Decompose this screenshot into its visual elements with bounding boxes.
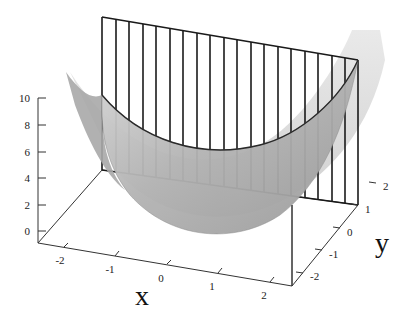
z-axis — [38, 98, 46, 243]
svg-text:-2: -2 — [310, 270, 319, 282]
svg-text:-1: -1 — [329, 248, 338, 260]
z-tick-labels: 10 8 6 4 2 0 — [19, 92, 31, 237]
x-tick-labels: -2 -1 0 1 2 — [55, 254, 266, 301]
svg-text:-1: -1 — [105, 263, 114, 275]
svg-text:8: 8 — [25, 119, 31, 131]
svg-text:2: 2 — [383, 180, 389, 192]
x-axis-title: x — [135, 280, 149, 311]
svg-text:1: 1 — [209, 280, 215, 292]
svg-text:2: 2 — [25, 199, 31, 211]
svg-text:2: 2 — [261, 289, 267, 301]
surface-front — [102, 60, 358, 234]
svg-text:0: 0 — [347, 226, 353, 238]
svg-text:0: 0 — [25, 225, 31, 237]
svg-text:0: 0 — [158, 272, 164, 284]
svg-text:10: 10 — [19, 92, 31, 104]
svg-text:4: 4 — [25, 172, 31, 184]
y-axis-title: y — [375, 227, 389, 258]
svg-text:6: 6 — [25, 146, 31, 158]
svg-text:-2: -2 — [55, 254, 64, 266]
x-axis-ticks — [64, 243, 274, 282]
surface-plot: 10 8 6 4 2 0 -2 -1 0 1 2 x -2 -1 0 1 2 y — [0, 0, 410, 321]
svg-text:1: 1 — [365, 203, 371, 215]
